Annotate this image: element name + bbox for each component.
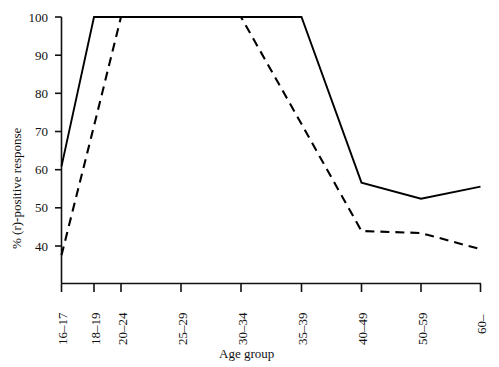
x-tick-label: 40–49 [356, 313, 369, 346]
y-tick-label: 80 [18, 87, 48, 100]
series-line-dashed [62, 17, 481, 255]
axis-lines [61, 17, 481, 284]
x-axis-title: Age group [219, 347, 274, 360]
x-tick-label: 25–29 [176, 313, 189, 346]
x-tick-label: 60– [475, 315, 488, 335]
x-tick-label: 18–19 [89, 313, 102, 346]
series-line-solid [62, 17, 481, 199]
y-axis-title: % (r)-positive response [10, 128, 23, 249]
y-tick-label: 90 [18, 49, 48, 62]
x-axis-ticks [62, 284, 481, 293]
x-tick-label: 30–34 [236, 313, 249, 346]
x-tick-label: 20–24 [116, 313, 129, 346]
x-tick-label: 16–17 [56, 313, 69, 346]
chart-figure: 100 90 80 70 60 50 40 16–17 18–19 20–24 … [0, 0, 499, 367]
y-tick-label: 100 [18, 11, 48, 24]
x-tick-label: 50–59 [416, 313, 429, 346]
x-tick-label: 35–39 [296, 313, 309, 346]
y-axis-ticks [55, 17, 62, 246]
